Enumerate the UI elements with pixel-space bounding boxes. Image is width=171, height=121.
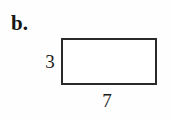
figure-canvas: b. 3 7	[0, 0, 171, 121]
rectangle-shape	[61, 38, 157, 85]
dimension-label-height: 3	[43, 52, 57, 71]
part-label-b: b.	[11, 12, 28, 34]
dimension-label-width: 7	[92, 91, 122, 110]
